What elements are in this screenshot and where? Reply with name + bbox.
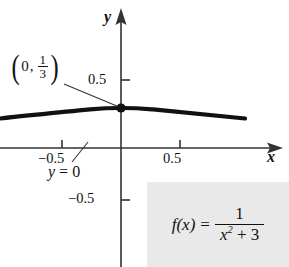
- asymptote-value: 0: [72, 163, 80, 180]
- y-axis-label: y: [104, 8, 111, 26]
- close-paren: ): [51, 53, 59, 81]
- fraction-denominator: 3: [38, 66, 49, 80]
- y-intercept-label: ( 0 , 1 3 ): [10, 53, 60, 81]
- denominator-rest: + 3: [233, 225, 260, 244]
- point-x-value: 0: [21, 58, 29, 75]
- tick-label-y-neg0.5: −0.5: [68, 190, 94, 207]
- formula-fraction: 1 x2 + 3: [215, 205, 264, 244]
- formula-denominator: x2 + 3: [215, 224, 264, 244]
- y-intercept-point-marker: [116, 103, 125, 112]
- formula-equals-sign: =: [200, 215, 210, 235]
- point-y-fraction: 1 3: [38, 53, 49, 80]
- tick-label-y-0.5: 0.5: [88, 71, 106, 88]
- formula-numerator: 1: [230, 205, 249, 224]
- fraction-numerator: 1: [38, 53, 49, 66]
- asymptote-label-leader-line: [72, 142, 88, 162]
- x-axis-label: x: [267, 148, 275, 166]
- y-axis: [116, 8, 127, 267]
- formula-function-name: f(x): [172, 215, 196, 235]
- tick-label-x-neg0.5: −0.5: [38, 150, 64, 167]
- function-formula: f(x) = 1 x2 + 3: [147, 182, 289, 267]
- point-comma: ,: [30, 58, 34, 75]
- open-paren: (: [12, 53, 20, 81]
- tick-label-x-0.5: 0.5: [163, 150, 181, 167]
- figure-graph-of-rational-function: ( 0 , 1 3 ) y = 0 0.5 −0.5 −0.5 0.5 y x …: [0, 0, 289, 267]
